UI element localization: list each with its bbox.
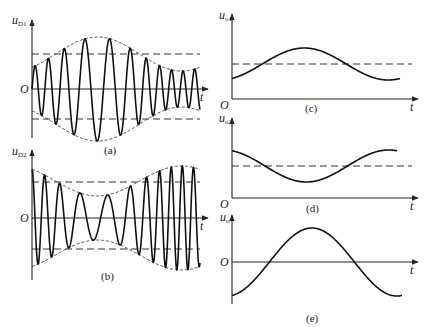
panel-e: uo O t (e) — [220, 210, 418, 325]
ylabel-d: uo2 — [219, 111, 233, 126]
origin-label-b: O — [20, 211, 29, 225]
panel-b: uD2 O t (b) — [12, 144, 208, 283]
ylabel-b: uD2 — [12, 144, 27, 159]
caption-a: (a) — [104, 144, 117, 157]
xlabel-b: t — [200, 219, 204, 233]
xlabel-a: t — [200, 90, 204, 104]
waveform-figure: uD1 O t (a) uD2 O t (b) uo1 O t (c) uo2 … — [0, 0, 429, 327]
ylabel-a: uD1 — [12, 13, 27, 28]
envelope-bottom-a — [32, 107, 200, 141]
origin-label-d: O — [220, 197, 229, 211]
origin-label-e: O — [220, 255, 229, 269]
origin-label-a: O — [20, 82, 29, 96]
panel-a: uD1 O t (a) — [12, 13, 208, 157]
caption-c: (c) — [305, 102, 318, 115]
origin-label-c: O — [220, 98, 229, 112]
ylabel-e: uo — [220, 210, 230, 225]
xlabel-c: t — [410, 100, 414, 114]
caption-d: (d) — [306, 202, 319, 215]
caption-b: (b) — [101, 270, 114, 283]
caption-e: (e) — [306, 312, 319, 325]
xlabel-d: t — [410, 199, 414, 213]
ylabel-c: uo1 — [219, 8, 233, 23]
panel-c: uo1 O t (c) — [219, 8, 418, 115]
xlabel-e: t — [410, 263, 414, 277]
panel-d: uo2 O t (d) — [219, 111, 418, 215]
